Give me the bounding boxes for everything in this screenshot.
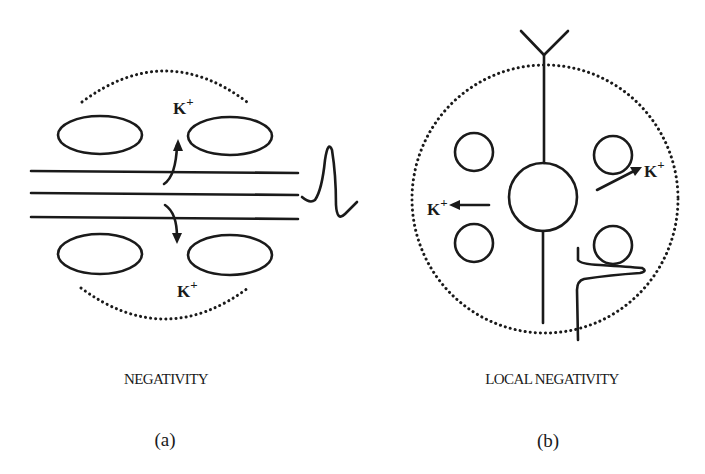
local-potential-trace: [577, 248, 645, 340]
glial-cell-top-right: [188, 117, 272, 155]
ion-label-top: K+: [173, 94, 194, 118]
glial-cell-bottom-left: [455, 224, 493, 262]
glial-cell-bottom-right: [594, 226, 632, 264]
caption-local-negativity: LOCAL NEGATIVITY: [485, 371, 619, 387]
action-potential-waveform: [302, 147, 357, 217]
ion-label-bottom: K+: [177, 277, 198, 301]
glial-cell-top-right: [594, 136, 632, 174]
fiber-line-bottom: [31, 217, 298, 219]
ion-label-right: K+: [644, 157, 665, 181]
caption-negativity: NEGATIVITY: [124, 371, 209, 387]
neuron-soma: [509, 163, 577, 231]
panel-label-b: (b): [537, 430, 559, 452]
glial-cell-top-left: [455, 133, 493, 171]
panel-b: K+ K+ LOCAL NEGATIVITY (b): [412, 31, 678, 452]
panel-label-a: (a): [154, 429, 175, 451]
figure: K+ K+ NEGATIVITY (a) K+: [0, 0, 705, 474]
arrow-down-head-icon: [172, 233, 182, 244]
arrow-up-head-icon: [173, 139, 183, 151]
glial-cell-bottom-left: [58, 234, 142, 274]
dendrite-fork: [521, 31, 568, 55]
dotted-boundary-bottom: [81, 288, 248, 319]
fiber-line-top: [31, 171, 298, 173]
glial-cell-bottom-right: [188, 235, 272, 275]
glial-cell-top-left: [58, 116, 142, 154]
panel-a: K+ K+ NEGATIVITY (a): [31, 71, 357, 451]
fiber-line-middle: [31, 193, 298, 195]
dotted-boundary-top: [82, 71, 247, 102]
ion-label-left: K+: [427, 195, 448, 219]
arrow-down-efflux: [165, 205, 177, 237]
arrow-left-head-icon: [449, 200, 460, 210]
